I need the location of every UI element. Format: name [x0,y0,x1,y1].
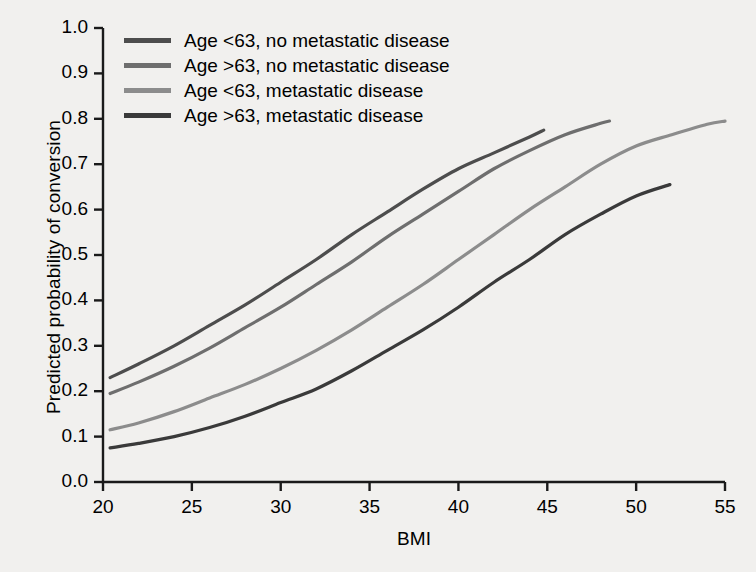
chart-legend: Age <63, no metastatic diseaseAge >63, n… [124,28,450,128]
curve [110,185,670,448]
legend-label: Age <63, metastatic disease [184,80,423,102]
legend-swatch-line-icon [124,113,171,118]
curve [110,121,725,430]
legend-item: Age >63, no metastatic disease [124,53,450,78]
legend-label: Age >63, metastatic disease [184,105,423,127]
data-curves [110,121,725,448]
legend-item: Age >63, metastatic disease [124,103,450,128]
legend-label: Age >63, no metastatic disease [184,55,450,77]
legend-swatch-line-icon [124,88,171,93]
chart-figure: Predicted probability of conversion BMI … [0,0,756,572]
curve [110,130,544,377]
legend-swatch-line-icon [124,38,171,43]
legend-item: Age <63, metastatic disease [124,78,450,103]
legend-swatch-line-icon [124,63,171,68]
legend-label: Age <63, no metastatic disease [184,30,450,52]
legend-item: Age <63, no metastatic disease [124,28,450,53]
